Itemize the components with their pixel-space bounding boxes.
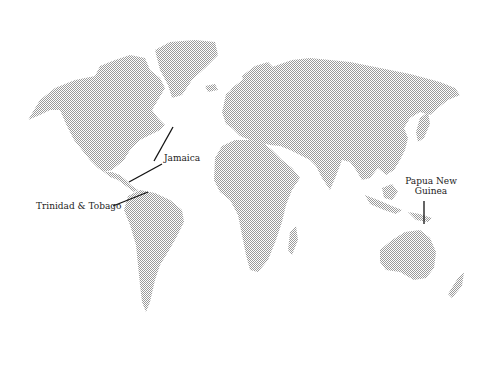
jamaica-leader-lower	[129, 164, 162, 182]
madagascar	[288, 226, 298, 255]
label-trinidad-tobago: Trinidad & Tobago	[36, 201, 122, 211]
central-america	[104, 172, 138, 192]
australia	[380, 230, 436, 280]
north-america	[28, 55, 165, 172]
japan	[416, 112, 430, 142]
new-zealand	[448, 272, 464, 298]
south-america	[124, 190, 184, 312]
land-masses	[28, 40, 464, 312]
label-png-line1: Papua New	[402, 176, 460, 186]
africa	[214, 140, 300, 272]
iceland	[205, 84, 218, 92]
new-guinea	[408, 212, 432, 222]
label-papua-new-guinea: Papua New Guinea	[402, 176, 460, 196]
borneo	[382, 184, 398, 200]
label-jamaica: Jamaica	[164, 153, 200, 163]
label-png-line2: Guinea	[402, 186, 460, 196]
se-asia-islands	[365, 195, 402, 214]
